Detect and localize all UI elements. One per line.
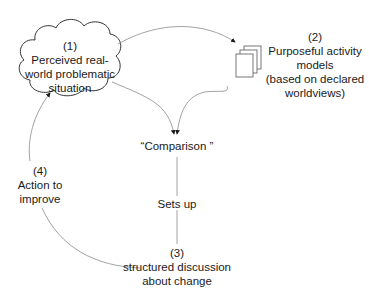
node-number: (4) bbox=[10, 164, 70, 178]
edge-label-sets-up: Sets up bbox=[147, 197, 207, 211]
node-action-to-improve: (4) Action to improve bbox=[10, 164, 70, 206]
node-text-line: “Comparison ” bbox=[127, 139, 227, 153]
node-text-line: models bbox=[262, 58, 368, 72]
node-text-line: situation bbox=[22, 81, 118, 95]
node-text-line: structured discussion bbox=[117, 260, 237, 274]
edge-models-to-comparison bbox=[177, 86, 227, 134]
node-text-line: Action to bbox=[10, 178, 70, 192]
node-number: (3) bbox=[117, 246, 237, 260]
node-text-line: world problematic bbox=[22, 67, 118, 81]
node-text-line: improve bbox=[10, 192, 70, 206]
edge-situation-to-comparison bbox=[112, 82, 174, 134]
node-text-line: (based on declared bbox=[262, 72, 368, 86]
page-stack-icon bbox=[236, 46, 261, 77]
node-activity-models: (2) Purposeful activity models (based on… bbox=[262, 30, 368, 100]
node-number: (1) bbox=[22, 39, 118, 53]
edge-situation-to-models bbox=[118, 27, 235, 45]
node-text-line: about change bbox=[117, 274, 237, 288]
node-comparison: “Comparison ” bbox=[127, 139, 227, 153]
edge-action-to-situation bbox=[29, 93, 50, 161]
node-structured-discussion: (3) structured discussion about change bbox=[117, 246, 237, 288]
node-text-line: Perceived real- bbox=[22, 53, 118, 67]
node-text-line: worldviews) bbox=[262, 86, 368, 100]
node-perceived-situation: (1) Perceived real- world problematic si… bbox=[22, 39, 118, 95]
node-text-line: Purposeful activity bbox=[262, 44, 368, 58]
edge-label-text: Sets up bbox=[147, 197, 207, 211]
node-number: (2) bbox=[262, 30, 368, 44]
